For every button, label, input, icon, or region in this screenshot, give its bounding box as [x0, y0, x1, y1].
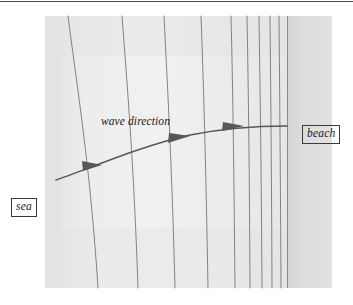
wave-refraction-figure: sea beach wave direction	[0, 0, 353, 305]
beach-label: beach	[302, 125, 340, 144]
beach-region	[288, 16, 332, 288]
sea-label: sea	[11, 198, 37, 217]
wave-refraction-diagram	[0, 0, 353, 305]
wave-direction-label: wave direction	[101, 115, 170, 127]
